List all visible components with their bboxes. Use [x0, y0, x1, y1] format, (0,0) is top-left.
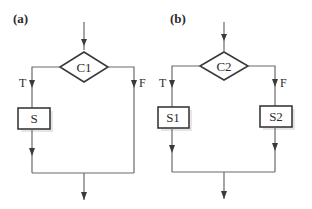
arrow-head-icon [29, 148, 35, 156]
statement-s1-label: S1 [166, 110, 180, 125]
arrow-head-icon [169, 145, 175, 153]
arrow-head-icon [169, 80, 175, 88]
true-label-a: T [19, 76, 27, 90]
arrow-head-icon [131, 80, 137, 88]
statement-s2: S2 [260, 106, 295, 130]
panel-a-label: (a) [13, 11, 28, 26]
false-label-a: F [139, 76, 146, 90]
false-branch-a [108, 67, 134, 173]
arrow-head-icon [272, 143, 278, 151]
arrow-head-icon [221, 34, 227, 41]
flowchart-diagram: (a) C1 T S F (b) [0, 0, 312, 209]
panel-b-label: (b) [170, 11, 186, 26]
decision-c2-label: C2 [216, 59, 231, 74]
decision-c1-label: C1 [76, 60, 91, 75]
decision-c1: C1 [60, 52, 108, 82]
statement-s-label: S [30, 111, 37, 126]
statement-s: S [18, 108, 53, 132]
arrow-head-icon [29, 80, 35, 88]
arrow-head-icon [81, 192, 87, 200]
true-branch-b [172, 66, 200, 107]
false-label-b: F [280, 76, 287, 90]
panel-a: (a) C1 T S F [13, 11, 146, 200]
statement-s1: S1 [158, 107, 192, 131]
false-branch-b [248, 66, 275, 106]
true-label-b: T [159, 76, 167, 90]
statement-s2-label: S2 [269, 109, 283, 124]
arrow-head-icon [272, 79, 278, 87]
decision-c2: C2 [200, 52, 248, 80]
true-branch-a [32, 67, 60, 108]
arrow-head-icon [221, 191, 227, 199]
panel-b: (b) C2 T S1 F S2 [158, 11, 295, 199]
arrow-head-icon [81, 39, 87, 46]
